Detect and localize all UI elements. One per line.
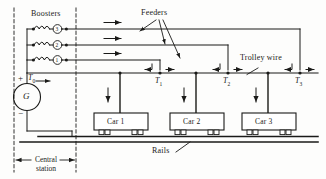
feeders-label: Feeders <box>141 8 167 17</box>
terminal-t0-sub: 0 <box>32 78 35 84</box>
generator-label: G <box>23 91 30 101</box>
electrical-distribution-diagram: Boosters Feeders Trolley wire Rails 3 2 … <box>0 0 326 179</box>
central-station-label: Central station <box>31 155 61 173</box>
boosters-label: Boosters <box>31 9 61 18</box>
car-1-label: Car 1 <box>107 117 124 126</box>
junction-dot-t3 <box>298 71 301 74</box>
booster-number-3: 3 <box>56 26 59 32</box>
booster-row-1 <box>27 56 68 65</box>
terminal-t1-sub: 1 <box>159 81 162 87</box>
generator-plus-sign: + <box>18 73 23 83</box>
booster-row-3 <box>27 25 68 34</box>
car-2-wheel-a <box>175 130 180 135</box>
booster-number-2: 2 <box>56 42 59 48</box>
junction-dot-t1 <box>158 71 161 74</box>
terminal-t2-sub: 2 <box>227 81 230 87</box>
car-2-wheel-c <box>208 130 213 135</box>
junction-dot-t2 <box>226 71 229 74</box>
car-1-wheel-d <box>138 130 143 135</box>
car-3-wheel-d <box>286 130 291 135</box>
car-1-wheel-b <box>105 130 110 135</box>
generator-minus-sign: − <box>18 108 23 118</box>
feeders-leader-lines <box>140 20 180 58</box>
terminal-label-t1: T1 <box>155 76 162 87</box>
booster-row-2 <box>27 41 68 50</box>
central-station-line-2: station <box>31 164 61 173</box>
car-2-wheel-b <box>181 130 186 135</box>
terminal-label-t0: T0 <box>28 73 35 84</box>
car-3-wheel-a <box>247 130 252 135</box>
rails-leader <box>176 142 190 152</box>
car-2-label: Car 2 <box>183 117 200 126</box>
rails-label: Rails <box>152 146 169 155</box>
car-3-wheel-c <box>280 130 285 135</box>
car-1-wheel-c <box>132 130 137 135</box>
terminal-label-t3: T3 <box>295 76 302 87</box>
car-1-wheel-a <box>99 130 104 135</box>
terminal-t3-sub: 3 <box>299 81 302 87</box>
car-3-label: Car 3 <box>255 117 272 126</box>
trolley-wire-label: Trolley wire <box>240 53 282 62</box>
car-3-wheel-b <box>253 130 258 135</box>
central-station-line-1: Central <box>31 155 61 164</box>
terminal-label-t2: T2 <box>223 76 230 87</box>
car-2-wheel-d <box>214 130 219 135</box>
booster-number-1: 1 <box>56 57 59 63</box>
